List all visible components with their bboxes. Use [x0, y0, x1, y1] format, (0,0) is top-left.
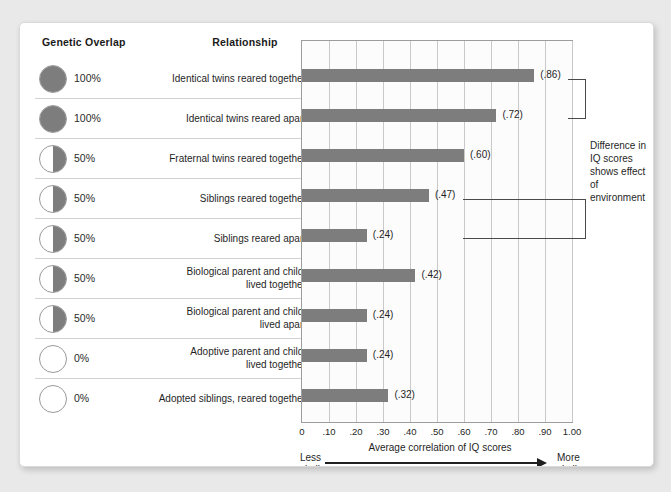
x-axis-tick-label: 1.00: [563, 426, 582, 437]
bar-value-label: (.24): [373, 309, 394, 320]
bar-value-label: (.24): [373, 229, 394, 240]
relationship-label-line1: Fraternal twins reared together: [120, 152, 306, 165]
genetic-overlap-percent: 0%: [74, 352, 89, 364]
genetic-overlap-circle-icon: [39, 345, 67, 373]
column-header-relationship: Relationship: [175, 36, 315, 48]
gridline: [410, 41, 411, 422]
bar-value-label: (.24): [373, 349, 394, 360]
circle-fill-half: [53, 226, 66, 252]
figure-card: Genetic Overlap Relationship 100%Identic…: [19, 22, 654, 467]
relationship-label-line1: Siblings reared apart: [120, 232, 306, 245]
arrow-line: [325, 462, 538, 464]
relationship-label-line1: Biological parent and child,: [120, 305, 306, 318]
bracket-siblings: [463, 199, 586, 239]
relationship-label-line2: lived together: [120, 358, 306, 371]
bar-value-label: (.86): [540, 69, 561, 80]
arrow-head-icon: [537, 458, 547, 467]
axis-end-label-less: Less similar: [300, 452, 329, 467]
circle-fill-full: [40, 66, 66, 92]
relationship-label: Adoptive parent and child,lived together: [120, 345, 306, 371]
relationship-label-line2: lived apart: [120, 318, 306, 331]
x-axis-tick-label: .60: [457, 426, 470, 437]
relationship-label-line1: Identical twins reared together: [120, 72, 306, 85]
x-axis-tick-label: .10: [322, 426, 335, 437]
bracket-identical-twins: [568, 79, 586, 119]
x-axis-tick-label: .40: [403, 426, 416, 437]
bar: [302, 389, 388, 402]
genetic-overlap-percent: 50%: [74, 192, 95, 204]
genetic-overlap-circle-icon: [39, 105, 67, 133]
genetic-overlap-percent: 100%: [74, 112, 101, 124]
genetic-overlap-percent: 50%: [74, 272, 95, 284]
relationship-label: Biological parent and child,lived togeth…: [120, 265, 306, 291]
axis-end-label-more: More similar: [557, 452, 586, 467]
bar: [302, 149, 464, 162]
relationship-label: Siblings reared together: [120, 192, 306, 205]
x-axis-tick-label: .30: [376, 426, 389, 437]
x-axis-title: Average correlation of IQ scores: [320, 442, 560, 453]
relationship-label: Biological parent and child,lived apart: [120, 305, 306, 331]
circle-fill-half: [53, 266, 66, 292]
relationship-label-line1: Biological parent and child,: [120, 265, 306, 278]
relationship-label: Fraternal twins reared together: [120, 152, 306, 165]
x-axis-tick-label: .80: [511, 426, 524, 437]
direction-arrow: [325, 458, 550, 467]
bar-value-label: (.42): [421, 269, 442, 280]
circle-fill-half: [53, 146, 66, 172]
genetic-overlap-circle-icon: [39, 265, 67, 293]
axis-end-label-more-line2: similar: [557, 464, 586, 467]
relationship-label: Identical twins reared together: [120, 72, 306, 85]
relationship-label: Siblings reared apart: [120, 232, 306, 245]
bar-value-label: (.32): [394, 389, 415, 400]
annotation-text: Difference in IQ scores shows effect of …: [590, 139, 650, 204]
axis-end-label-less-line2: similar: [300, 464, 329, 467]
x-axis-tick-label: .20: [349, 426, 362, 437]
genetic-overlap-circle-icon: [39, 145, 67, 173]
relationship-label: Adopted siblings, reared together: [120, 392, 306, 405]
genetic-overlap-percent: 0%: [74, 392, 89, 404]
bar-value-label: (.60): [470, 149, 491, 160]
genetic-overlap-percent: 50%: [74, 312, 95, 324]
relationship-label-line1: Siblings reared together: [120, 192, 306, 205]
x-axis-tick-labels: 0.10.20.30.40.50.60.70.80.901.00: [301, 426, 591, 440]
bar-value-label: (.72): [502, 109, 523, 120]
axis-end-label-less-line1: Less: [300, 452, 329, 464]
relationship-label-line1: Adoptive parent and child,: [120, 345, 306, 358]
relationship-label-line2: lived together: [120, 278, 306, 291]
circle-fill-half: [53, 306, 66, 332]
axis-end-label-more-line1: More: [557, 452, 586, 464]
relationship-label: Identical twins reared apart: [120, 112, 306, 125]
x-axis-tick-label: 0: [299, 426, 304, 437]
genetic-overlap-percent: 50%: [74, 152, 95, 164]
bar: [302, 229, 367, 242]
bar: [302, 349, 367, 362]
column-header-genetic-overlap: Genetic Overlap: [42, 36, 126, 48]
circle-fill-full: [40, 106, 66, 132]
genetic-overlap-percent: 50%: [74, 232, 95, 244]
relationship-label-line1: Adopted siblings, reared together: [120, 392, 306, 405]
x-axis-tick-label: .50: [430, 426, 443, 437]
gridline: [437, 41, 438, 422]
bar: [302, 309, 367, 322]
bar: [302, 269, 415, 282]
bar-value-label: (.47): [435, 189, 456, 200]
x-axis-tick-label: .90: [538, 426, 551, 437]
circle-fill-half: [53, 186, 66, 212]
bar: [302, 69, 534, 82]
relationship-label-line1: Identical twins reared apart: [120, 112, 306, 125]
genetic-overlap-circle-icon: [39, 305, 67, 333]
genetic-overlap-circle-icon: [39, 185, 67, 213]
genetic-overlap-circle-icon: [39, 385, 67, 413]
genetic-overlap-percent: 100%: [74, 72, 101, 84]
page-background: Genetic Overlap Relationship 100%Identic…: [0, 0, 671, 492]
bar: [302, 109, 496, 122]
genetic-overlap-circle-icon: [39, 225, 67, 253]
genetic-overlap-circle-icon: [39, 65, 67, 93]
bar: [302, 189, 429, 202]
x-axis-tick-label: .70: [484, 426, 497, 437]
